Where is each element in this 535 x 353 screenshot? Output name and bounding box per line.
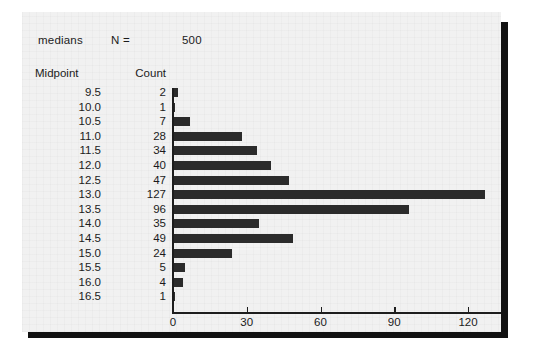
midpoint-value: 10.5 [35, 115, 101, 128]
count-value: 1 [118, 101, 166, 114]
midpoint-value: 14.5 [35, 232, 101, 245]
histogram-bar [173, 161, 271, 170]
count-value: 28 [118, 130, 166, 143]
midpoint-value: 12.0 [35, 159, 101, 172]
midpoint-value: 16.0 [35, 276, 101, 289]
midpoint-value: 16.5 [35, 290, 101, 303]
histogram-bar [173, 263, 185, 272]
x-axis-tick-label: 0 [153, 316, 193, 328]
screenshot-root: medians N = 500 Midpoint Count 9.5210.01… [0, 0, 535, 353]
count-value: 96 [118, 203, 166, 216]
histogram-row: 14.549 [22, 232, 501, 246]
histogram-row: 13.596 [22, 203, 501, 217]
count-value: 5 [118, 261, 166, 274]
histogram-bar [173, 176, 289, 185]
count-value: 49 [118, 232, 166, 245]
count-value: 127 [118, 188, 166, 201]
histogram-bar [173, 190, 485, 199]
x-axis-tick [321, 307, 322, 314]
midpoint-value: 15.5 [35, 261, 101, 274]
histogram-row: 11.534 [22, 144, 501, 158]
histogram-row: 11.028 [22, 130, 501, 144]
histogram-bar [173, 132, 242, 141]
x-axis-tick [247, 307, 248, 314]
x-axis-tick-label: 60 [301, 316, 341, 328]
histogram-row: 10.01 [22, 101, 501, 115]
histogram-row: 16.04 [22, 276, 501, 290]
x-axis-tick [173, 307, 174, 314]
midpoint-value: 11.0 [35, 130, 101, 143]
histogram-bar [173, 117, 190, 126]
count-value: 2 [118, 86, 166, 99]
midpoint-value: 13.5 [35, 203, 101, 216]
midpoint-value: 11.5 [35, 144, 101, 157]
x-axis-tick [468, 307, 469, 314]
count-value: 34 [118, 144, 166, 157]
x-axis-tick [394, 307, 395, 314]
x-axis-tick-label: 90 [374, 316, 414, 328]
count-value: 7 [118, 115, 166, 128]
histogram-row: 13.0127 [22, 188, 501, 202]
histogram-bar [173, 249, 232, 258]
histogram-bar [173, 234, 293, 243]
midpoint-value: 9.5 [35, 86, 101, 99]
midpoint-value: 12.5 [35, 174, 101, 187]
histogram-bar [173, 146, 257, 155]
histogram-rows: 9.5210.0110.5711.02811.53412.04012.54713… [22, 12, 501, 332]
x-axis-tick-label: 120 [448, 316, 488, 328]
page-shadow-bottom [28, 331, 508, 338]
histogram-row: 15.55 [22, 261, 501, 275]
histogram-row: 12.547 [22, 174, 501, 188]
histogram-row: 10.57 [22, 115, 501, 129]
midpoint-value: 14.0 [35, 217, 101, 230]
histogram-row: 14.035 [22, 217, 501, 231]
count-value: 47 [118, 174, 166, 187]
histogram-row: 9.52 [22, 86, 501, 100]
histogram-figure: medians N = 500 Midpoint Count 9.5210.01… [22, 12, 501, 332]
midpoint-value: 13.0 [35, 188, 101, 201]
histogram-bar [173, 219, 259, 228]
histogram-row: 12.040 [22, 159, 501, 173]
count-value: 35 [118, 217, 166, 230]
y-axis-line [172, 88, 174, 313]
midpoint-value: 10.0 [35, 101, 101, 114]
x-axis-line [172, 312, 501, 314]
page-shadow-right [501, 22, 508, 338]
count-value: 24 [118, 247, 166, 260]
histogram-bar [173, 205, 409, 214]
count-value: 1 [118, 290, 166, 303]
histogram-bar [173, 278, 183, 287]
count-value: 40 [118, 159, 166, 172]
histogram-row: 16.51 [22, 290, 501, 304]
x-axis-tick-label: 30 [227, 316, 267, 328]
count-value: 4 [118, 276, 166, 289]
histogram-row: 15.024 [22, 247, 501, 261]
histogram-bar [173, 88, 178, 97]
midpoint-value: 15.0 [35, 247, 101, 260]
